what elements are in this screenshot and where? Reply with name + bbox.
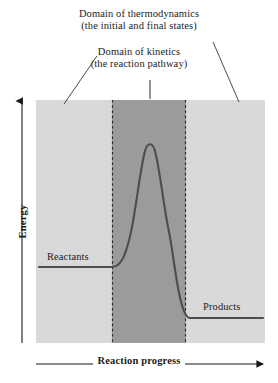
reactants-label: Reactants [47, 251, 89, 262]
x-axis-label: Reaction progress [0, 355, 278, 366]
products-label: Products [203, 301, 241, 312]
diagram-canvas [0, 0, 278, 383]
domain-kinetics-band [112, 100, 186, 343]
reaction-energy-diagram: Domain of thermodynamics (the initial an… [0, 0, 278, 383]
y-axis-label: Energy [17, 186, 28, 258]
x-axis-label-text: Reaction progress [93, 355, 186, 366]
thermodynamics-left-leader-line [64, 56, 97, 104]
thermodynamics-right-leader-line [213, 42, 239, 102]
